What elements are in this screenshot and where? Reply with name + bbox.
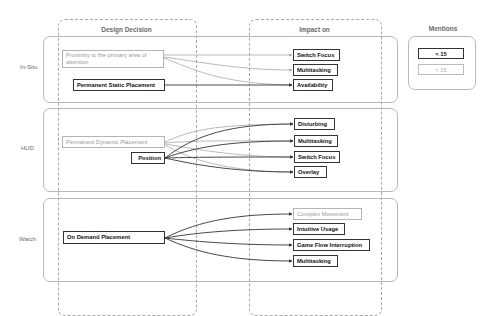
node-on-demand-placement: On Demand Placement [63, 231, 165, 244]
node-insitu-availability: Availability [293, 79, 333, 91]
design-decision-title: Design Decision [58, 26, 195, 33]
node-position: Position [131, 152, 165, 164]
row-hud [43, 108, 398, 192]
row-in-situ [43, 36, 398, 103]
node-hud-overlay: Overlay [294, 166, 327, 178]
legend-item-more-15: > 15 [418, 64, 464, 75]
row-label-hud: HUD [21, 145, 34, 151]
row-label-watch: Watch [19, 236, 36, 242]
node-insitu-multitasking: Multitasking [293, 64, 338, 76]
legend-item-less-15: < 15 [418, 48, 464, 59]
legend [408, 36, 476, 90]
node-watch-multitasking: Multitasking [293, 255, 338, 267]
node-game-flow-interruption: Game Flow Interruption [293, 239, 370, 251]
legend-title: Mentions [410, 25, 476, 32]
node-hud-switch-focus: Switch Focus [294, 151, 340, 163]
node-complex-movement: Complex Movement [293, 208, 362, 220]
node-insitu-switch-focus: Switch Focus [293, 49, 340, 61]
row-label-in-situ: In-Situ [20, 64, 37, 70]
node-hud-multitasking: Multitasking [294, 135, 338, 147]
node-hud-disturbing: Disturbing [294, 118, 335, 130]
impact-on-title: Impact on [249, 26, 380, 33]
node-proximity: Proximity to the primary area of attenti… [62, 50, 164, 68]
node-permanent-static-placement: Permanent Static Placement [73, 79, 165, 91]
node-permanent-dynamic-placement: Permanent Dynamic Placement [62, 136, 165, 148]
node-intuitive-usage: Intuitive Usage [293, 223, 345, 235]
